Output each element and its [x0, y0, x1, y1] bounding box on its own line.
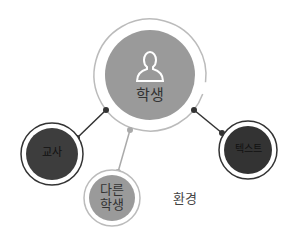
other-students-node-label-line1: 다른	[87, 183, 137, 198]
teacher-node-label: 교사	[27, 147, 77, 160]
connector-teacher	[77, 110, 106, 138]
dot	[103, 107, 109, 113]
center-node	[105, 30, 195, 120]
text-node-label: 텍스트	[223, 143, 273, 155]
diagram-canvas	[0, 0, 294, 243]
dot	[191, 107, 197, 113]
other-students-node-label-line2: 학생	[87, 198, 137, 213]
environment-label: 환경	[165, 192, 205, 207]
center-node-label: 학생	[120, 87, 180, 104]
dot	[127, 127, 133, 133]
connector-other-students	[118, 130, 130, 172]
connector-text	[194, 110, 222, 133]
